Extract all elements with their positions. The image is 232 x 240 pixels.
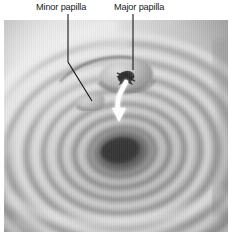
figure-duodenal-papillae: Minor papilla Major papilla [0,0,232,240]
endoscopic-photograph [4,20,228,232]
photo-canvas [4,20,228,232]
label-major-papilla: Major papilla [114,2,164,12]
film-grain [4,20,228,232]
label-minor-papilla: Minor papilla [36,2,86,12]
